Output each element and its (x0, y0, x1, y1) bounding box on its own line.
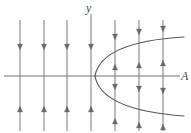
arrow-up-lower-5 (112, 118, 117, 124)
field-lines-group (20, 14, 163, 131)
arrow-down-inner-3 (160, 88, 165, 94)
arrow-down-upper-7 (160, 26, 165, 32)
arrow-down-upper-5 (112, 34, 117, 40)
arrow-up-lower-7 (160, 124, 165, 130)
arrow-up-inner-2 (136, 62, 141, 68)
x-axis-label: A (181, 70, 188, 82)
vector-field-figure: y A (0, 0, 191, 133)
arrow-down-upper-6 (136, 29, 141, 35)
arrow-up-inner-1 (112, 64, 117, 70)
arrow-up-lower-1 (17, 106, 22, 112)
arrow-down-upper-1 (17, 44, 22, 50)
field-diagram-svg (0, 0, 191, 133)
arrow-up-lower-3 (64, 106, 69, 112)
parabola-lower-branch (95, 76, 184, 116)
arrow-up-lower-6 (136, 122, 141, 128)
y-axis-label: y (86, 2, 91, 14)
arrow-up-inner-3 (160, 60, 165, 66)
arrow-down-upper-3 (64, 44, 69, 50)
arrow-down-inner-2 (136, 86, 141, 92)
arrow-up-lower-2 (41, 106, 46, 112)
arrow-down-inner-1 (112, 84, 117, 90)
arrow-down-upper-2 (41, 44, 46, 50)
arrow-down-upper-4 (88, 44, 93, 50)
arrow-up-lower-4 (88, 106, 93, 112)
parabola-upper-branch (95, 37, 184, 76)
